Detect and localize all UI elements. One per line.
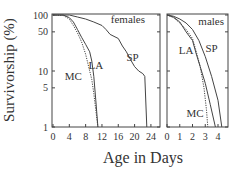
series-label-sp: SP <box>206 42 218 54</box>
y-tick-label: 10 <box>38 66 48 77</box>
survivorship-figure: Survivorship (%) Age in Days 10050105104… <box>0 0 237 174</box>
y-axis-label: Survivorship (%) <box>1 18 18 122</box>
x-tick-label: 0 <box>51 131 56 142</box>
x-tick-label: 4 <box>67 131 72 142</box>
females-panel: 10050105104812162024SPLAMCfemales <box>33 10 160 143</box>
series-label-mc: MC <box>65 70 82 82</box>
x-tick-label: 8 <box>83 131 88 142</box>
y-tick-label: 1 <box>43 122 48 133</box>
x-tick-label: 12 <box>97 131 107 142</box>
x-tick-label: 24 <box>146 131 156 142</box>
females-annotation: females <box>111 13 145 25</box>
y-tick-label: 100 <box>33 10 48 21</box>
y-tick-label: 5 <box>43 82 48 93</box>
series-label-mc: MC <box>186 107 203 119</box>
x-tick-label: 2 <box>190 131 195 142</box>
x-tick-label: 0 <box>165 131 170 142</box>
x-tick-label: 1 <box>177 131 182 142</box>
males-panel: 01234SPLAMCmales <box>165 14 229 142</box>
series-label-sp: SP <box>126 51 138 63</box>
y-tick-label: 50 <box>38 26 48 37</box>
x-tick-label: 20 <box>130 131 140 142</box>
males-annotation: males <box>198 15 224 27</box>
x-tick-label: 3 <box>203 131 208 142</box>
x-tick-label: 16 <box>113 131 123 142</box>
series-label-la: LA <box>89 59 104 71</box>
x-tick-label: 4 <box>216 131 221 142</box>
series-label-la: LA <box>179 44 194 56</box>
x-axis-label: Age in Days <box>103 149 183 167</box>
